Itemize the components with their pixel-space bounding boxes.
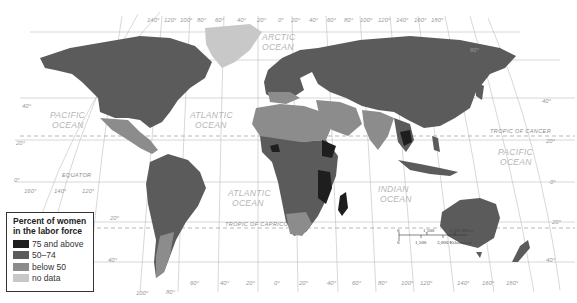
ocean-label: INDIAN <box>378 184 409 194</box>
svg-text:20°: 20° <box>290 17 301 23</box>
bottom-longitude-labels: 100° 80° 60° 40° 20° 0° 20° 40° 60° 80° … <box>136 280 519 296</box>
top-longitude-labels: 140° 120° 100° 80° 60° 40° 20° 0° 20° 40… <box>147 17 444 23</box>
svg-text:160°: 160° <box>414 17 427 23</box>
svg-text:160°: 160° <box>24 188 37 194</box>
ocean-label: OCEAN <box>52 120 84 130</box>
svg-text:140°: 140° <box>54 188 67 194</box>
svg-text:120°: 120° <box>420 280 433 286</box>
ocean-label: OCEAN <box>195 120 227 130</box>
map-legend: Percent of women in the labor force 75 a… <box>6 212 94 292</box>
svg-text:140°: 140° <box>396 17 409 23</box>
svg-text:1,500: 1,500 <box>423 228 435 234</box>
svg-text:20°: 20° <box>298 280 309 286</box>
svg-text:40°: 40° <box>220 280 230 286</box>
svg-text:0°: 0° <box>14 177 20 183</box>
svg-text:120°: 120° <box>164 17 177 23</box>
legend-swatch <box>13 240 29 248</box>
svg-text:60°: 60° <box>327 17 337 23</box>
ocean-label: PACIFIC <box>50 110 86 120</box>
svg-text:180°: 180° <box>431 17 444 23</box>
madagascar <box>338 192 348 216</box>
svg-text:100°: 100° <box>360 17 373 23</box>
svg-text:40°: 40° <box>237 17 247 23</box>
svg-text:60°: 60° <box>190 280 200 286</box>
svg-text:20°: 20° <box>551 219 562 225</box>
svg-text:40°: 40° <box>542 98 552 104</box>
svg-text:0°: 0° <box>550 179 556 185</box>
legend-swatch <box>13 251 29 259</box>
legend-label: 50–74 <box>32 250 56 260</box>
ocean-label: OCEAN <box>500 157 532 167</box>
legend-title: Percent of women in the labor force <box>13 217 87 236</box>
svg-text:40°: 40° <box>309 17 319 23</box>
legend-item-50-74: 50–74 <box>13 250 87 262</box>
south-america <box>146 154 206 278</box>
svg-text:3,000 Kilometers: 3,000 Kilometers <box>437 240 472 246</box>
svg-text:20°: 20° <box>15 140 26 146</box>
tropic-capricorn-label: TROPIC OF CAPRICORN <box>225 221 297 227</box>
legend-swatch <box>13 274 29 282</box>
new-zealand <box>512 240 530 262</box>
svg-text:20°: 20° <box>545 138 556 144</box>
ocean-label: ARCTIC <box>261 32 296 42</box>
scale-bar: 0 1,500 3,000 Miles 0 1,500 3,000 Kilome… <box>397 227 477 249</box>
greenland <box>205 24 262 68</box>
japan <box>476 82 484 100</box>
svg-text:180°: 180° <box>506 280 519 286</box>
legend-label: 75 and above <box>32 239 84 249</box>
svg-text:140°: 140° <box>147 17 160 23</box>
legend-item-75-above: 75 and above <box>13 238 87 250</box>
svg-text:20°: 20° <box>245 280 256 286</box>
svg-text:20°: 20° <box>109 215 120 221</box>
svg-text:0: 0 <box>397 240 400 245</box>
svg-text:1,500: 1,500 <box>415 240 427 246</box>
philippines <box>432 136 440 152</box>
ocean-label: PACIFIC <box>498 147 534 157</box>
tropic-cancer-label: TROPIC OF CANCER <box>490 128 551 134</box>
svg-text:80°: 80° <box>166 289 176 295</box>
svg-text:0°: 0° <box>278 17 284 23</box>
svg-text:60°: 60° <box>352 280 362 286</box>
indonesia <box>398 160 458 176</box>
equator-label: EQUATOR <box>62 172 92 178</box>
svg-text:40°: 40° <box>327 280 337 286</box>
tasmania <box>476 252 482 258</box>
svg-text:60°: 60° <box>215 17 225 23</box>
ocean-label: ATLANTIC <box>189 110 233 120</box>
ocean-label: OCEAN <box>262 42 294 52</box>
legend-item-below-50: below 50 <box>13 261 87 273</box>
svg-text:0: 0 <box>397 228 400 233</box>
svg-text:40°: 40° <box>108 257 118 263</box>
legend-swatch <box>13 263 29 271</box>
ocean-label: OCEAN <box>232 198 264 208</box>
svg-text:120°: 120° <box>82 188 95 194</box>
ocean-label: OCEAN <box>380 194 412 204</box>
svg-text:120°: 120° <box>378 17 391 23</box>
ocean-label: ATLANTIC <box>227 188 271 198</box>
svg-text:40°: 40° <box>22 103 32 109</box>
svg-text:140°: 140° <box>457 280 470 286</box>
svg-text:160°: 160° <box>482 280 495 286</box>
legend-label: no data <box>32 273 60 283</box>
svg-text:20°: 20° <box>256 17 267 23</box>
legend-item-no-data: no data <box>13 273 87 285</box>
svg-text:100°: 100° <box>136 290 149 296</box>
svg-text:60°: 60° <box>470 47 480 53</box>
svg-text:80°: 80° <box>197 17 207 23</box>
east-africa <box>318 170 332 204</box>
legend-label: below 50 <box>32 262 66 272</box>
svg-text:3,000 Miles: 3,000 Miles <box>449 228 473 234</box>
svg-text:100°: 100° <box>401 280 414 286</box>
india <box>362 110 394 150</box>
svg-text:0°: 0° <box>274 280 280 286</box>
svg-text:80°: 80° <box>344 17 354 23</box>
svg-text:80°: 80° <box>378 280 388 286</box>
svg-text:40°: 40° <box>546 257 556 263</box>
svg-text:100°: 100° <box>180 17 193 23</box>
